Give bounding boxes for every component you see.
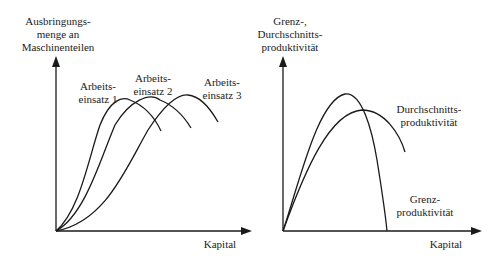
left-x-arrow-icon	[241, 227, 252, 235]
curve-label-arbeitseinsatz-3: Arbeits- einsatz 3	[200, 76, 244, 102]
right-x-axis-label: Kapital	[426, 238, 466, 251]
label-line: einsatz 3	[200, 89, 244, 102]
curve-label-durchschnittsproduktivitaet: Durchschnitts- produktivität	[392, 103, 466, 129]
curve-label-grenzproduktivitaet: Grenz- produktivität	[390, 193, 460, 219]
label-line: Durchschnitts-	[392, 103, 466, 116]
label-line: Grenz-	[390, 193, 460, 206]
label-line: Durchschnitts-	[250, 28, 330, 41]
label-line: Maschinenteilen	[18, 41, 98, 54]
label-line: einsatz 1	[76, 93, 120, 106]
curve-label-arbeitseinsatz-2: Arbeits- einsatz 2	[131, 72, 175, 98]
left-y-axis-label: Ausbringungs- menge an Maschinenteilen	[18, 15, 98, 54]
label-line: Ausbringungs-	[18, 15, 98, 28]
right-x-arrow-icon	[471, 227, 482, 235]
right-y-arrow-icon	[279, 56, 287, 67]
curve-grenzproduktivitaet	[283, 94, 387, 231]
label-line: Arbeits-	[200, 76, 244, 89]
left-x-axis-label: Kapital	[200, 238, 240, 251]
label-line: menge an	[18, 28, 98, 41]
curve-arbeitseinsatz-1	[56, 99, 161, 231]
label-line: Arbeits-	[76, 80, 120, 93]
label-line: produktivität	[250, 41, 330, 54]
label-line: produktivität	[392, 116, 466, 129]
label-line: produktivität	[390, 206, 460, 219]
left-y-arrow-icon	[52, 56, 60, 67]
curve-arbeitseinsatz-2	[56, 97, 191, 231]
curve-label-arbeitseinsatz-1: Arbeits- einsatz 1	[76, 80, 120, 106]
label-line: einsatz 2	[131, 85, 175, 98]
curve-arbeitseinsatz-3	[56, 95, 218, 231]
production-function-diagram: Ausbringungs- menge an Maschinenteilen A…	[0, 0, 503, 262]
right-y-axis-label: Grenz-, Durchschnitts- produktivität	[250, 15, 330, 54]
label-line: Grenz-,	[250, 15, 330, 28]
label-line: Arbeits-	[131, 72, 175, 85]
